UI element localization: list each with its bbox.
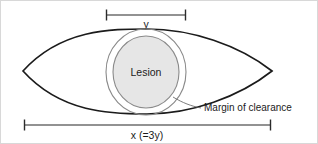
margin-of-clearance-label: Margin of clearance: [204, 102, 292, 113]
x-dimension-group: x (=3y): [24, 120, 271, 142]
diagram-canvas: y Lesion Margin of clearance x (=3y): [1, 1, 318, 144]
lesion-label: Lesion: [131, 66, 162, 78]
x-dimension-label: x (=3y): [131, 129, 163, 141]
y-dimension-group: y: [106, 10, 186, 31]
excision-diagram-figure: y Lesion Margin of clearance x (=3y): [0, 0, 318, 144]
